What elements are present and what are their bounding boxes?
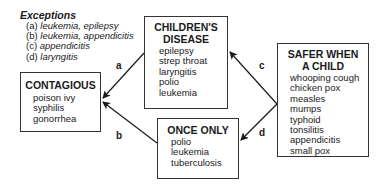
node-title: CONTAGIOUS — [21, 79, 100, 91]
node-items: epilepsy strep throat laryngitis polio l… — [145, 46, 227, 98]
node-item: small pox — [290, 146, 368, 156]
node-item: tuberculosis — [171, 158, 238, 168]
node-item: gonorrhea — [33, 114, 100, 124]
node-contagious: CONTAGIOUS poison ivy syphilis gonorrhea — [20, 72, 101, 132]
node-items: whooping cough chicken pox measles mumps… — [278, 73, 368, 156]
node-title-line2: DISEASE — [145, 33, 227, 45]
edge-label-d: d — [259, 127, 265, 138]
edge-label-c: c — [259, 60, 265, 71]
node-once-only: ONCE ONLY polio leukemia tuberculosis — [157, 118, 239, 179]
node-title-line2: A CHILD — [278, 60, 368, 72]
node-childrens-disease: CHILDREN'S DISEASE epilepsy strep throat… — [144, 16, 228, 109]
node-title: ONCE ONLY — [158, 124, 238, 136]
arrow-c — [230, 52, 277, 104]
node-title-line1: CHILDREN'S — [145, 21, 227, 33]
node-items: poison ivy syphilis gonorrhea — [21, 93, 100, 124]
edge-label-a: a — [116, 60, 122, 71]
exception-letter: (d) — [26, 51, 38, 62]
node-safer-when-child: SAFER WHEN A CHILD whooping cough chicke… — [277, 43, 369, 157]
edge-label-b: b — [116, 130, 122, 141]
node-item: leukemia — [159, 88, 227, 98]
exceptions-legend: Exceptions (a) leukemia, epilepsy (b) le… — [20, 9, 134, 62]
exception-text: laryngitis — [40, 51, 78, 62]
node-title-line1: SAFER WHEN — [278, 48, 368, 60]
node-items: polio leukemia tuberculosis — [158, 137, 238, 168]
